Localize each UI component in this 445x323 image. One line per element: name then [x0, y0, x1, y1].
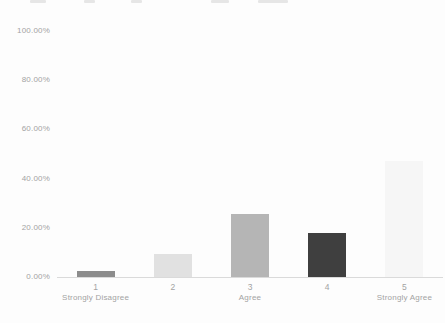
bar-category-5 [385, 161, 423, 277]
y-axis-tick-label: 40.00% [0, 174, 50, 184]
y-axis-tick-label: 60.00% [0, 124, 50, 134]
cropped-title-fragment [131, 0, 142, 3]
y-axis-tick-label: 0.00% [0, 272, 50, 282]
bar-category-2 [154, 254, 192, 277]
x-axis-tick-label: 1 [57, 282, 134, 292]
bar-category-3 [231, 214, 269, 277]
bar-slot [366, 31, 443, 277]
bar-category-1 [77, 271, 115, 277]
plot-area [57, 31, 443, 278]
x-axis-category-sublabel: Strongly Disagree [57, 293, 134, 302]
x-axis-tick-label: 2 [134, 282, 211, 292]
x-axis-category-sublabel: Strongly Agree [366, 293, 443, 302]
cropped-title-fragment [84, 0, 95, 3]
bar-category-4 [308, 233, 346, 277]
cropped-title-fragment [258, 0, 288, 3]
bar-chart: 0.00%20.00%40.00%60.00%80.00%100.00% 123… [0, 0, 445, 323]
bar-slot [57, 31, 134, 277]
x-axis-sublabels: Strongly DisagreeAgreeStrongly Agree [57, 293, 443, 302]
x-axis-numbers: 12345 [57, 282, 443, 292]
cropped-title-fragment [211, 0, 229, 3]
bar-slot [134, 31, 211, 277]
x-axis-tick-label: 4 [289, 282, 366, 292]
x-axis-category-sublabel: Agree [211, 293, 288, 302]
x-axis-tick-label: 5 [366, 282, 443, 292]
bar-slot [211, 31, 288, 277]
x-axis-tick-label: 3 [211, 282, 288, 292]
x-axis-category-sublabel [289, 293, 366, 302]
y-axis-tick-label: 20.00% [0, 223, 50, 233]
y-axis-tick-label: 80.00% [0, 75, 50, 85]
cropped-title-fragment [30, 0, 46, 3]
bar-slot [289, 31, 366, 277]
x-axis-category-sublabel [134, 293, 211, 302]
y-axis-tick-label: 100.00% [0, 26, 50, 36]
